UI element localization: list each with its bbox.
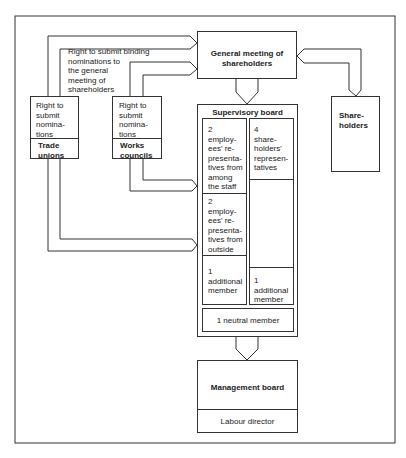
text-line: 1	[254, 276, 288, 286]
text-line: submit	[119, 111, 148, 121]
divider	[31, 138, 78, 139]
text-line: nomina-	[119, 120, 148, 130]
shareholders-box: Share- holders	[331, 96, 380, 172]
arrow-supervisory-to-management	[236, 337, 258, 360]
text-line: holders	[339, 121, 368, 131]
text-line: tives from	[208, 163, 243, 173]
text-line: additional	[254, 286, 288, 296]
text-line: member	[254, 295, 288, 305]
neutral-member-label: 1 neutral member	[203, 316, 293, 326]
divider	[113, 138, 161, 139]
right-column: 4 share- holders' represen- tatives 1 ad…	[249, 118, 294, 305]
works-councils-label: Works councils	[120, 141, 152, 160]
text-line: submit	[36, 111, 65, 121]
employee-reps-outside: 2 employ- ees' re- presenta- tives from …	[208, 197, 243, 254]
divider	[203, 193, 246, 194]
divider	[203, 255, 246, 256]
shareholders-label: Share- holders	[339, 111, 368, 130]
note-line: shareholders	[68, 85, 149, 95]
binding-nominations-note: Right to submit binding nominations to t…	[68, 47, 149, 95]
text-line: 2	[208, 197, 243, 207]
neutral-member-box: 1 neutral member	[202, 308, 294, 332]
note-line: meeting of	[68, 76, 149, 86]
general-meeting-box: General meeting of shareholders	[197, 31, 297, 79]
text-line: Trade	[38, 141, 64, 151]
text-line: tatives	[254, 163, 288, 173]
text-line: ees' re-	[208, 216, 243, 226]
supervisory-board-title: Supervisory board	[198, 108, 297, 118]
management-board-title: Management board	[198, 383, 297, 393]
text-line: the staff	[208, 182, 243, 192]
text-line: unions	[38, 151, 64, 161]
text-line: Right to	[36, 101, 65, 111]
text-line: share-	[254, 135, 288, 145]
arrow-trade-unions-to-outside-reps	[48, 159, 197, 251]
trade-unions-box: Right to submit nomina- tions Trade unio…	[30, 96, 79, 159]
employee-reps-staff: 2 employ- ees' re- presenta- tives from …	[208, 125, 243, 192]
text-line: Works	[120, 141, 152, 151]
text-line: tives from	[208, 235, 243, 245]
general-meeting-label: General meeting of shareholders	[206, 49, 288, 68]
trade-unions-right-text: Right to submit nomina- tions	[36, 101, 65, 139]
divider	[198, 409, 297, 410]
works-councils-box: Right to submit nomina- tions Works coun…	[112, 96, 162, 159]
note-line: Right to submit binding	[68, 47, 149, 57]
arrow-general-meeting-to-shareholders	[297, 49, 361, 96]
text-line: councils	[120, 151, 152, 161]
text-line: presenta-	[208, 154, 243, 164]
left-column: 2 employ- ees' re- presenta- tives from …	[202, 118, 247, 305]
text-line: nomina-	[36, 120, 65, 130]
arrow-general-meeting-to-supervisory	[236, 79, 258, 104]
management-board-box: Management board Labour director	[197, 360, 298, 433]
text-line: outside	[208, 245, 243, 255]
text-line: Right to	[119, 101, 148, 111]
shareholder-reps: 4 share- holders' represen- tatives	[254, 125, 288, 173]
text-line: 4	[254, 125, 288, 135]
text-line: employ-	[208, 207, 243, 217]
text-line: presenta-	[208, 226, 243, 236]
text-line: member	[208, 286, 242, 296]
text-line: 2	[208, 125, 243, 135]
text-line: Share-	[339, 111, 368, 121]
divider	[250, 267, 293, 268]
text-line: employ-	[208, 135, 243, 145]
note-line: nominations to	[68, 57, 149, 67]
supervisory-board-box: Supervisory board 2 employ- ees' re- pre…	[197, 104, 298, 337]
note-line: the general	[68, 66, 149, 76]
text-line: ees' re-	[208, 144, 243, 154]
additional-member-right: 1 additional member	[254, 276, 288, 305]
labour-director-label: Labour director	[198, 417, 297, 427]
works-councils-right-text: Right to submit nomina- tions	[119, 101, 148, 139]
trade-unions-label: Trade unions	[38, 141, 64, 160]
divider	[250, 179, 293, 180]
additional-member-left: 1 additional member	[208, 267, 242, 296]
text-line: 1	[208, 267, 242, 277]
arrow-works-councils-to-staff-reps	[130, 159, 197, 191]
text-line: holders'	[254, 144, 288, 154]
text-line: represen-	[254, 154, 288, 164]
text-line: additional	[208, 277, 242, 287]
text-line: among	[208, 173, 243, 183]
